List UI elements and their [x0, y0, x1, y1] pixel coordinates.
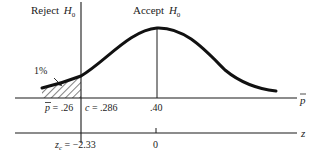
observed-pbar-label: p = .26 [44, 102, 73, 113]
pbar-center-label: .40 [150, 102, 163, 113]
pbar-axis-label: p [299, 94, 306, 106]
hypothesis-test-diagram: Reject H0 Accept H0 1% p = .26 c = .286 … [0, 0, 323, 156]
z-axis-label: z [300, 127, 306, 139]
reject-h0-label: Reject H0 [31, 4, 76, 19]
z-center-label: 0 [153, 139, 158, 150]
tail-area-label: 1% [34, 65, 47, 76]
critical-z-label: zc = −2.33 [54, 139, 96, 152]
accept-h0-label: Accept H0 [133, 4, 181, 19]
critical-c-label: c = .286 [85, 102, 118, 113]
